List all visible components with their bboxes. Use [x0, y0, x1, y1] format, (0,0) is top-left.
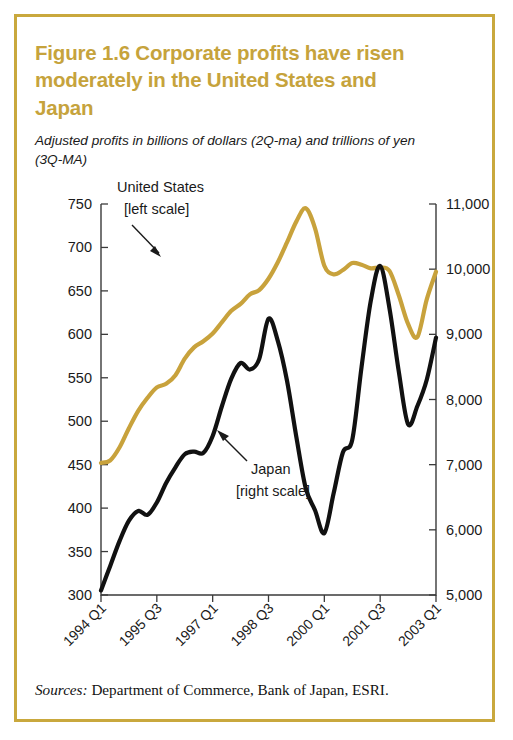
x-tick-label: 2000 Q1 [283, 600, 332, 649]
left-tick-label: 500 [68, 413, 92, 429]
chart-plot-area: 300350400450500550600650700750 5,0006,00… [17, 167, 492, 657]
x-tick-label: 1994 Q1 [60, 600, 109, 649]
right-tick-label: 6,000 [446, 522, 482, 538]
left-tick-label: 300 [68, 587, 92, 603]
figure-card: Figure 1.6 Corporate profits have risen … [14, 14, 495, 722]
right-axis-ticks [429, 204, 436, 595]
dual-axis-line-chart: 300350400450500550600650700750 5,0006,00… [17, 167, 492, 657]
series-line-united-states [101, 208, 436, 463]
x-tick-label: 1995 Q3 [116, 600, 165, 649]
left-tick-label: 350 [68, 544, 92, 560]
figure-content: Figure 1.6 Corporate profits have risen … [17, 17, 492, 719]
series-line-japan [101, 266, 436, 591]
left-tick-label: 400 [68, 500, 92, 516]
right-tick-label: 9,000 [446, 326, 482, 342]
x-tick-label: 1997 Q1 [171, 600, 220, 649]
right-tick-label: 8,000 [446, 392, 482, 408]
series-layer [101, 208, 436, 590]
left-tick-label: 550 [68, 370, 92, 386]
left-tick-label: 700 [68, 239, 92, 255]
left-tick-label: 650 [68, 283, 92, 299]
axis-frame [101, 204, 436, 595]
left-tick-label: 450 [68, 457, 92, 473]
figure-subtitle: Adjusted profits in billions of dollars … [35, 131, 445, 169]
x-axis-tick-labels: 1994 Q11995 Q31997 Q11998 Q32000 Q12001 … [60, 600, 444, 649]
right-tick-label: 7,000 [446, 457, 482, 473]
source-note: Sources: Department of Commerce, Bank of… [35, 681, 478, 699]
source-text: Department of Commerce, Bank of Japan, E… [88, 681, 389, 698]
left-tick-label: 750 [68, 196, 92, 212]
x-tick-label: 2003 Q1 [395, 600, 444, 649]
left-axis-ticks [101, 204, 108, 595]
annotation-us-label: United States [117, 179, 204, 195]
annotation-us-scale: [left scale] [124, 201, 189, 217]
right-tick-label: 5,000 [446, 587, 482, 603]
x-tick-label: 1998 Q3 [227, 600, 276, 649]
right-axis-tick-labels: 5,0006,0007,0008,0009,00010,00011,000 [446, 196, 490, 603]
right-tick-label: 10,000 [446, 261, 490, 277]
x-tick-label: 2001 Q3 [339, 600, 388, 649]
annotation-jp-label: Japan [251, 461, 291, 477]
figure-title: Figure 1.6 Corporate profits have risen … [35, 39, 435, 121]
annotation-us-arrowhead [150, 246, 161, 257]
annotation-jp-arrowhead [217, 430, 229, 441]
left-tick-label: 600 [68, 326, 92, 342]
annotation-jp-scale: [right scale] [236, 483, 310, 499]
source-label: Sources: [35, 681, 88, 698]
annotation-layer: United States[left scale]Japan[right sca… [117, 179, 310, 499]
left-axis-tick-labels: 300350400450500550600650700750 [68, 196, 92, 603]
right-tick-label: 11,000 [446, 196, 489, 212]
